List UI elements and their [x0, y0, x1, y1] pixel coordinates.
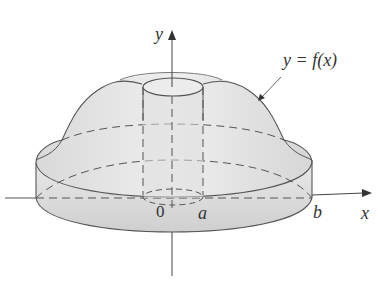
y-axis-arrowhead	[168, 30, 176, 40]
origin-label: 0	[156, 203, 165, 220]
y-axis-label: y	[155, 25, 163, 43]
x-axis-right	[312, 193, 364, 195]
inner-cylinder-fill	[143, 87, 203, 198]
x-axis-arrowhead	[362, 189, 372, 197]
curve-pointer-line	[262, 77, 281, 97]
x-mark-a: a	[198, 204, 207, 222]
solid-of-revolution-diagram	[0, 0, 378, 285]
inner-cylinder-top	[143, 78, 203, 96]
curve-label: y = f(x)	[283, 51, 337, 69]
x-axis-label: x	[361, 204, 369, 222]
x-mark-b: b	[313, 203, 322, 221]
